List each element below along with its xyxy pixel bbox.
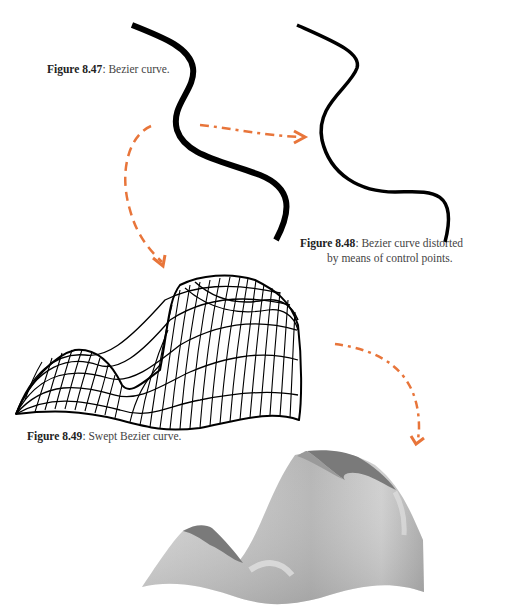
wireframe-surface xyxy=(16,275,301,429)
bezier-curve-8-47 xyxy=(132,25,287,240)
dashed-arrow-right-icon xyxy=(200,125,305,143)
figure-graphics xyxy=(0,0,518,613)
dashed-arrow-down-icon xyxy=(335,344,424,444)
dashed-arrow-down-icon xyxy=(125,126,165,266)
shaded-surface xyxy=(142,450,424,604)
bezier-curve-8-48 xyxy=(297,25,449,242)
